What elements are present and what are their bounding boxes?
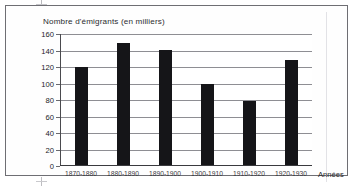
y-axis-tick [56,166,60,167]
y-axis-tick-label: 60 [46,112,54,121]
bar [117,43,130,165]
chart-figure-frame: Nombre d'émigrants (en milliers) 0204060… [5,5,348,176]
y-axis-tick-label: 120 [41,63,54,72]
page-edge-line [326,12,327,182]
scan-registration-mark-bottom-cross [36,181,47,182]
gridline [60,117,312,118]
x-axis-title: Années [318,170,344,179]
gridline [60,51,312,52]
y-axis-tick-label: 140 [41,46,54,55]
y-axis-tick-label: 80 [46,96,54,105]
x-axis-tick-label: 1910-1920 [233,170,265,177]
gridline [60,84,312,85]
y-axis-tick-label: 0 [50,162,54,171]
x-axis-tick-label: 1920-1930 [275,170,307,177]
x-axis-tick-label: 1880-1890 [107,170,139,177]
x-axis-tick-label: 1890-1900 [149,170,181,177]
gridline [60,150,312,151]
gridline [60,100,312,101]
bar [243,101,256,165]
x-axis-tick-label: 1870-1880 [65,170,97,177]
y-axis-tick-label: 20 [46,145,54,154]
x-axis-tick-label: 1900-1910 [191,170,223,177]
gridline [60,133,312,134]
gridline [60,67,312,68]
bar [159,50,172,165]
bar [201,84,214,165]
y-axis-tick-label: 40 [46,129,54,138]
plot-area: 020406080100120140160 1870-18801880-1890… [60,34,312,166]
x-axis-line [60,165,312,166]
y-axis-tick-label: 100 [41,79,54,88]
chart-title: Nombre d'émigrants (en milliers) [43,17,165,26]
bar [285,60,298,165]
gridline [60,34,312,35]
y-axis-tick-label: 160 [41,30,54,39]
bar [75,67,88,165]
y-axis-line [60,34,61,166]
